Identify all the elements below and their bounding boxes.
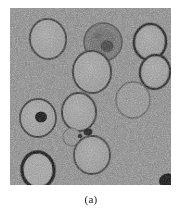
micrograph-tone-overlay — [10, 8, 171, 185]
figure-caption: (a) — [0, 192, 182, 206]
figure-panel-a: (a) — [0, 0, 182, 217]
electron-micrograph-image — [10, 8, 171, 185]
micrograph-canvas — [10, 8, 171, 185]
